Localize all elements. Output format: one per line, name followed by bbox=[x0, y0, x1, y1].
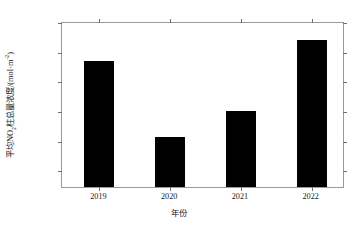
bar bbox=[226, 111, 256, 187]
x-axis-tick bbox=[241, 187, 242, 191]
x-axis-tick-label: 2020 bbox=[161, 192, 177, 201]
y-axis-tick bbox=[343, 171, 347, 172]
x-axis-title: 年份 bbox=[0, 206, 357, 218]
bar bbox=[297, 40, 327, 187]
x-axis-tick bbox=[312, 19, 313, 23]
y-axis-title-suffix: ) bbox=[6, 52, 15, 55]
y-axis-tick bbox=[343, 82, 347, 83]
bars-layer bbox=[62, 23, 343, 187]
x-axis-tick bbox=[241, 19, 242, 23]
y-axis-title-middle: 柱总量浓度/(mol·m bbox=[6, 60, 15, 127]
y-axis-tick bbox=[58, 53, 62, 54]
x-axis-tick bbox=[170, 187, 171, 191]
y-axis-tick bbox=[343, 112, 347, 113]
y-axis-title: 平均NO2柱总量浓度/(mol·m-2) bbox=[4, 22, 18, 188]
y-axis-title-subscript: 2 bbox=[11, 127, 17, 130]
y-axis-title-superscript: -2 bbox=[4, 55, 10, 60]
x-axis-tick bbox=[312, 187, 313, 191]
bar bbox=[155, 137, 185, 187]
x-axis-tick bbox=[99, 187, 100, 191]
y-axis-tick bbox=[343, 53, 347, 54]
x-axis-tick bbox=[170, 19, 171, 23]
x-axis-tick-label: 2019 bbox=[90, 192, 106, 201]
x-axis-tick bbox=[99, 19, 100, 23]
plot-area bbox=[61, 22, 344, 188]
y-axis-tick bbox=[343, 23, 347, 24]
bar-chart: 7×10-58×10-59×10-510×10-511×10-512×10-5 … bbox=[0, 0, 357, 231]
x-axis-tick-label: 2022 bbox=[302, 192, 318, 201]
bar bbox=[84, 61, 114, 187]
y-axis-tick bbox=[58, 171, 62, 172]
y-axis-tick bbox=[58, 112, 62, 113]
y-axis-tick bbox=[343, 142, 347, 143]
y-axis-title-prefix: 平均NO bbox=[6, 130, 15, 158]
y-axis-tick bbox=[58, 23, 62, 24]
y-axis-tick bbox=[58, 82, 62, 83]
y-axis-tick bbox=[58, 142, 62, 143]
x-axis-tick-label: 2021 bbox=[232, 192, 248, 201]
